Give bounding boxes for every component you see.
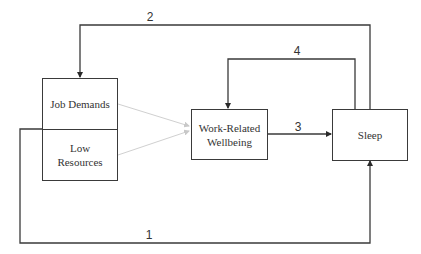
node-work-wellbeing-label: Work-Related Wellbeing: [199, 121, 260, 149]
edge-2-label: 2: [147, 10, 154, 24]
node-work-wellbeing: Work-Related Wellbeing: [191, 109, 268, 160]
node-low-resources: Low Resources: [42, 129, 118, 181]
node-sleep-label: Sleep: [358, 128, 382, 142]
node-job-demands: Job Demands: [42, 78, 118, 130]
edge-3-label: 3: [295, 120, 302, 134]
edge-lr-wb-arrow: [118, 131, 189, 155]
node-low-resources-label: Low Resources: [57, 141, 102, 169]
edge-4-label: 4: [294, 44, 301, 58]
edge-1-label: 1: [146, 228, 153, 242]
node-job-demands-label: Job Demands: [50, 97, 110, 111]
edge-jd-wb-arrow: [118, 104, 189, 126]
node-sleep: Sleep: [332, 109, 408, 161]
edge-4-arrow: [228, 59, 355, 109]
edge-2-arrow: [80, 25, 370, 109]
